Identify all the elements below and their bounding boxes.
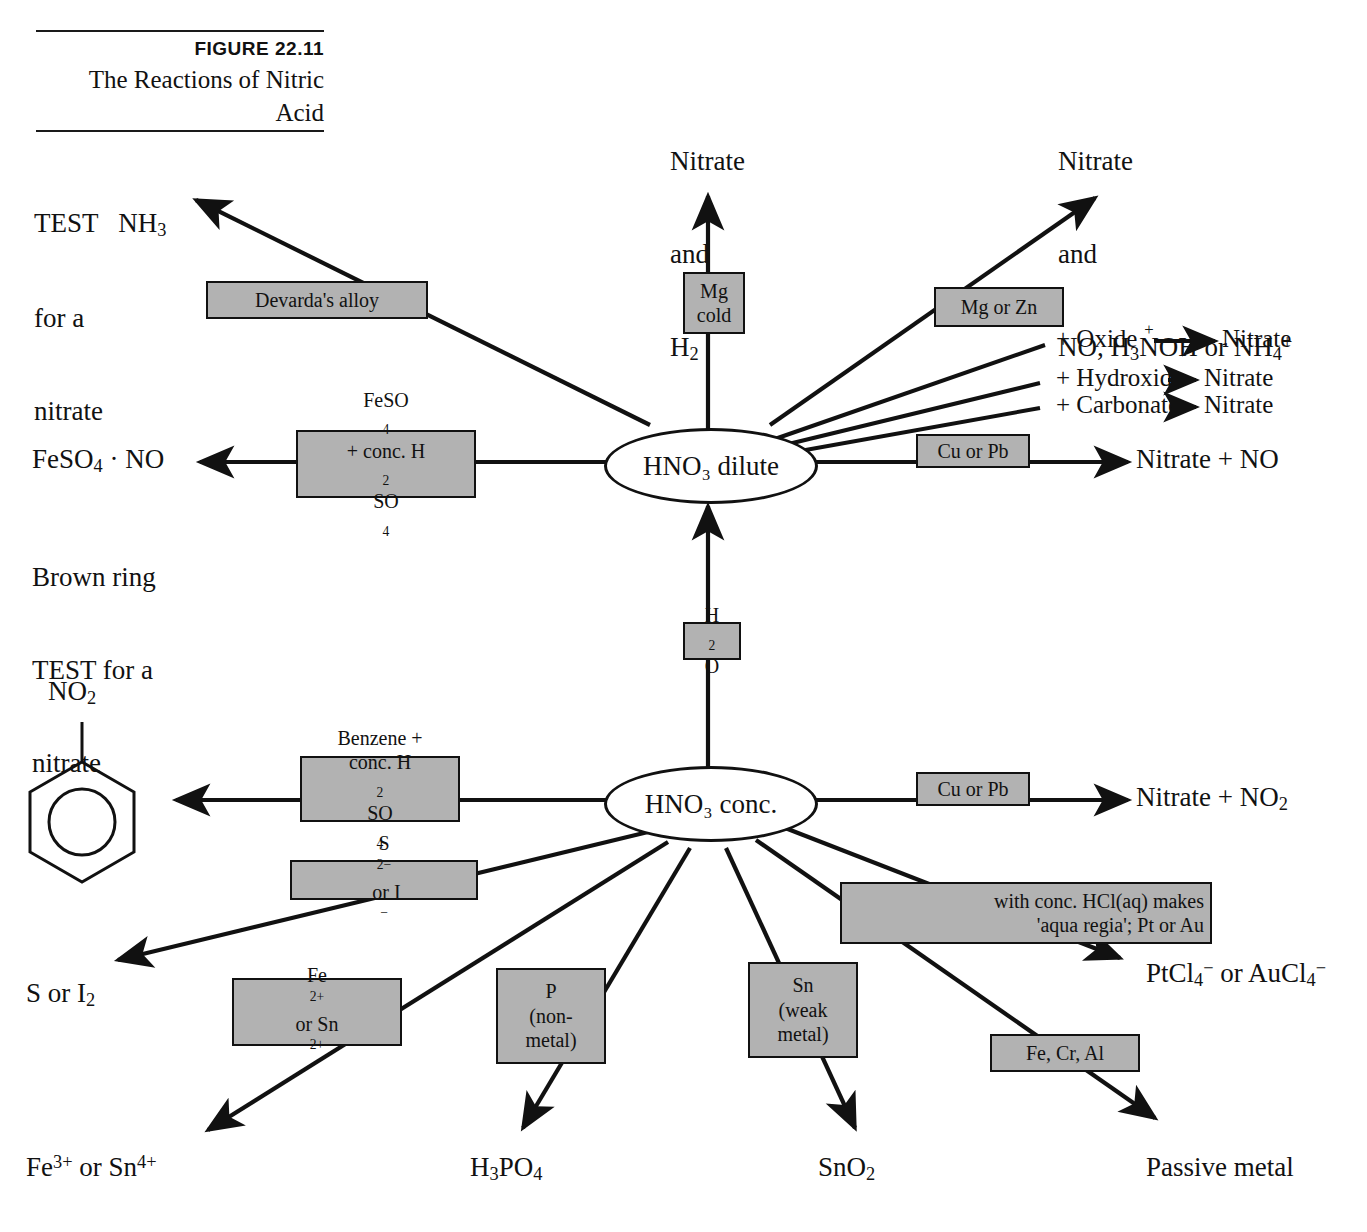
brown-ring-line1: Brown ring: [32, 562, 156, 593]
hno3-dilute-label: HNO₃ dilute: [643, 451, 779, 482]
cu-or-pb-dilute-label: Cu or Pb: [931, 439, 1014, 463]
fe2-charge: 2+: [310, 989, 324, 1004]
box-h2o[interactable]: H2O: [683, 622, 741, 660]
hno3-conc-label: HNO₃ conc.: [645, 789, 777, 820]
box-cu-or-pb-conc[interactable]: Cu or Pb: [916, 772, 1030, 806]
or-i-letter: or I: [361, 880, 406, 904]
n-with-plus: N+: [1139, 332, 1159, 363]
p-label: P: [539, 979, 562, 1003]
label-h3po4: H3PO4: [470, 1152, 542, 1185]
feso4-text: FeSO: [32, 444, 94, 474]
label-fe3-sn4: Fe3+ or Sn4+: [26, 1152, 157, 1183]
h-text: H: [470, 1152, 490, 1182]
fe-text: Fe: [26, 1152, 53, 1182]
box-devardas-alloy[interactable]: Devarda's alloy: [206, 281, 428, 319]
label-sno2: SnO2: [818, 1152, 875, 1185]
nitrate-h2-line3: H: [670, 332, 690, 362]
h2-sub: 2: [383, 473, 390, 488]
box-fe2-or-sn2[interactable]: Fe2+ or Sn2+: [232, 978, 402, 1046]
po-text: PO: [499, 1152, 534, 1182]
n-plus-charge: +: [1144, 322, 1153, 339]
o4-sub: 4: [533, 1164, 542, 1184]
feso4-box-line1: FeSO4: [351, 388, 421, 439]
label-s-or-i2: S or I2: [26, 978, 95, 1011]
label-test-for-nitrate: TEST NH3 for a nitrate: [34, 146, 166, 489]
nonmetal-line2: metal): [519, 1028, 582, 1052]
no2-subscript: 2: [1279, 794, 1288, 814]
h2-subscript: 2: [690, 344, 699, 364]
label-nitrate-and-h2: Nitrate and H2: [670, 84, 745, 427]
sn2-charge: 2+: [310, 1037, 324, 1052]
product-carbonate-nitrate: Nitrate: [1204, 391, 1273, 419]
weakmetal-line1: (weak: [773, 998, 834, 1022]
product-hydroxide-nitrate: Nitrate: [1204, 364, 1273, 392]
benzene-h2-sub: 2: [377, 785, 384, 800]
h2o-h: H: [699, 603, 725, 627]
label-feso4-no: FeSO4 · NO: [32, 444, 164, 477]
figure-canvas: FIGURE 22.11 The Reactions of Nitric Aci…: [0, 0, 1367, 1232]
h2o-o: O: [699, 654, 725, 678]
figure-number: FIGURE 22.11: [36, 38, 324, 60]
mg-or-zn-label: Mg or Zn: [955, 295, 1044, 319]
nitrate-h2-line1: Nitrate: [670, 146, 745, 177]
box-mg-cold[interactable]: Mg cold: [683, 272, 745, 334]
label-no2-group: NO2: [48, 676, 96, 709]
box-p-nonmetal[interactable]: P (non- metal): [496, 968, 606, 1064]
reagent-hydroxide: + Hydroxide: [1056, 364, 1183, 392]
s-or-i-text: S or I: [26, 978, 86, 1008]
aucl4-sub: 4: [1307, 970, 1316, 990]
box-sn-weak-metal[interactable]: Sn (weak metal): [748, 962, 858, 1058]
s2-or-i-label: S2− or I−: [355, 831, 412, 929]
header-top-rule: [36, 30, 324, 32]
or-sn-text: or Sn: [73, 1152, 138, 1182]
fe-cr-al-label: Fe, Cr, Al: [1020, 1041, 1110, 1065]
cold-label: cold: [691, 303, 737, 327]
so4-sub: 4: [383, 524, 390, 539]
label-for-a: for a: [34, 303, 166, 334]
aqua-regia-line1: with conc. HCl(aq) makes: [988, 889, 1210, 913]
i2-subscript: 2: [86, 990, 95, 1010]
box-cu-or-pb-dilute[interactable]: Cu or Pb: [916, 434, 1030, 468]
feso4-subscript: 4: [94, 456, 103, 476]
header-bottom-rule: [36, 130, 324, 132]
label-passive-metal: Passive metal: [1146, 1152, 1294, 1183]
box-feso4-conc-h2so4[interactable]: FeSO4 + conc. H2SO4: [296, 430, 476, 498]
sno2-sub: 2: [866, 1164, 875, 1184]
figure-title-line1: The Reactions of Nitric: [20, 64, 324, 97]
mg-label: Mg: [694, 279, 734, 303]
fe2-line2: or Sn2+: [284, 1012, 351, 1061]
node-hno3-conc[interactable]: HNO₃ conc.: [604, 766, 818, 842]
reagent-carbonate: + Carbonate: [1056, 391, 1179, 419]
i-charge: −: [380, 905, 388, 920]
figure-title: The Reactions of Nitric Acid: [20, 64, 324, 129]
box-fe-cr-al[interactable]: Fe, Cr, Al: [990, 1034, 1140, 1072]
node-hno3-dilute[interactable]: HNO₃ dilute: [604, 428, 818, 504]
box-aqua-regia[interactable]: with conc. HCl(aq) makes 'aqua regia'; P…: [840, 882, 1212, 944]
nitrate-h2-line2: and: [670, 239, 745, 270]
sno-text: SnO: [818, 1152, 866, 1182]
label-nitrate-plus-no2: Nitrate + NO2: [1136, 782, 1288, 815]
nitrate-no2-text: Nitrate + NO: [1136, 782, 1279, 812]
label-nitrate-plus-no: Nitrate + NO: [1136, 444, 1279, 475]
label-test-nh3: TEST NH: [34, 208, 157, 238]
box-benzene-conc-h2so4[interactable]: Benzene + conc. H2SO4: [300, 756, 460, 822]
nitrate-no-line1: Nitrate: [1058, 146, 1292, 177]
cu-or-pb-conc-label: Cu or Pb: [931, 777, 1014, 801]
h3-sub: 3: [490, 1164, 499, 1184]
nonmetal-line1: (non-: [523, 1004, 578, 1028]
devardas-alloy-label: Devarda's alloy: [249, 288, 385, 312]
figure-title-line2: Acid: [20, 97, 324, 130]
s2-charge: 2−: [377, 857, 391, 872]
nitrate-no-line2: and: [1058, 239, 1292, 270]
ptcl4-charge: −: [1203, 958, 1213, 978]
h2o-sub: 2: [709, 638, 716, 653]
fe2-line1: Fe2+: [295, 963, 339, 1012]
no2-group-subscript: 2: [87, 688, 96, 708]
box-s2-or-i[interactable]: S2− or I−: [290, 860, 478, 900]
product-oxide-nitrate: Nitrate: [1222, 325, 1291, 353]
feso4-box-sub: 4: [383, 422, 390, 437]
s-letter: S: [361, 831, 406, 855]
no2-group-text: NO: [48, 676, 87, 706]
box-mg-or-zn[interactable]: Mg or Zn: [934, 287, 1064, 327]
benzene-line1: Benzene +: [331, 726, 428, 750]
